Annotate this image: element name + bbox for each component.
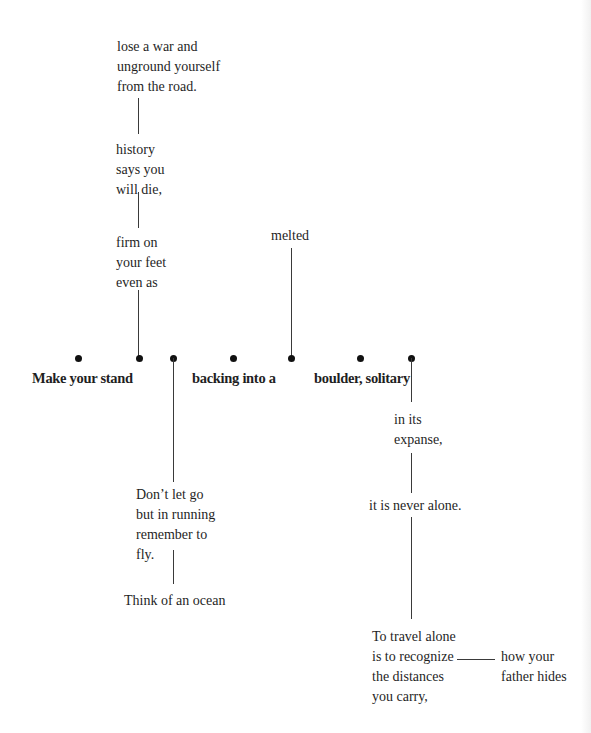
connector-line <box>173 550 174 584</box>
phrase-backing-into-a: backing into a <box>192 368 276 388</box>
page-edge-shadow <box>581 0 591 733</box>
dot-marker <box>75 355 82 362</box>
dot-marker <box>288 355 295 362</box>
dot-marker <box>136 355 143 362</box>
line: in its <box>394 410 443 430</box>
line: lose a war and <box>117 37 220 57</box>
connector-line <box>138 192 139 228</box>
line: history <box>116 140 165 160</box>
line: the distances <box>372 667 456 687</box>
connector-line <box>138 98 139 134</box>
line: even as <box>116 273 166 293</box>
line: firm on <box>116 233 166 253</box>
stanza-to-travel-alone: To travel alone is to recognize the dist… <box>372 627 456 707</box>
line: expanse, <box>394 430 443 450</box>
line: fly. <box>136 545 215 565</box>
line: from the road. <box>117 77 220 97</box>
line: remember to <box>136 525 215 545</box>
connector-line-horizontal <box>457 659 495 660</box>
line: is to recognize <box>372 647 456 667</box>
line: will die, <box>116 180 165 200</box>
line: father hides <box>501 667 567 687</box>
dot-marker <box>357 355 364 362</box>
connector-line <box>291 248 292 358</box>
stanza-how-your-father-hides: how your father hides <box>501 647 567 687</box>
line: how your <box>501 647 567 667</box>
dot-marker <box>230 355 237 362</box>
stanza-firm-on: firm on your feet even as <box>116 233 166 293</box>
line: your feet <box>116 253 166 273</box>
stanza-dont-let-go: Don’t let go but in running remember to … <box>136 485 215 565</box>
connector-line <box>138 290 139 358</box>
line: you carry, <box>372 687 456 707</box>
line-it-is-never-alone: it is never alone. <box>369 496 462 516</box>
line-think-of-an-ocean: Think of an ocean <box>124 591 225 611</box>
line: but in running <box>136 505 215 525</box>
connector-line <box>411 453 412 493</box>
connector-line <box>173 358 174 482</box>
word-melted: melted <box>271 226 309 246</box>
stanza-in-its-expanse: in its expanse, <box>394 410 443 450</box>
line: Don’t let go <box>136 485 215 505</box>
line: says you <box>116 160 165 180</box>
phrase-boulder-solitary: boulder, solitary <box>314 368 410 388</box>
connector-line <box>411 358 412 402</box>
phrase-make-your-stand: Make your stand <box>32 368 133 388</box>
stanza-history: history says you will die, <box>116 140 165 200</box>
stanza-lose-a-war: lose a war and unground yourself from th… <box>117 37 220 97</box>
connector-line <box>411 517 412 619</box>
line: To travel alone <box>372 627 456 647</box>
line: unground yourself <box>117 57 220 77</box>
